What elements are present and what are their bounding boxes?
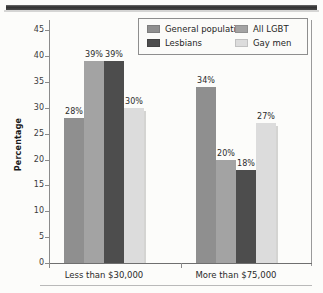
bar: [216, 160, 236, 263]
top-divider-shadow: [4, 10, 319, 12]
legend-swatch-icon: [147, 25, 160, 33]
y-tick-label-10: 10: [14, 207, 44, 215]
legend-label: Lesbians: [165, 38, 202, 49]
bar-shadow: [144, 111, 146, 263]
bar-value-label: 34%: [192, 76, 220, 85]
y-tick-label-30: 30: [14, 104, 44, 112]
y-tick-label-0: 0: [14, 259, 44, 267]
chart-legend[interactable]: General populationAll LGBTLesbiansGay me…: [138, 18, 308, 55]
x-tick-0: [49, 263, 50, 268]
y-tick-label-text: 15: [18, 181, 44, 189]
legend-swatch-icon: [235, 39, 248, 47]
y-tick-label-20: 20: [14, 156, 44, 164]
plot-area: 28%39%39%30%34%20%18%27%: [50, 20, 312, 263]
bar-value-label: 27%: [252, 112, 280, 121]
x-tick-1: [181, 263, 182, 268]
y-tick-label-40: 40: [14, 52, 44, 60]
bar: [256, 123, 276, 263]
bar-value-label: 20%: [212, 149, 240, 158]
legend-label: All LGBT: [253, 24, 289, 35]
y-tick-label-35: 35: [14, 78, 44, 86]
page-bottom-rule: [40, 285, 312, 286]
legend-swatch-icon: [147, 39, 160, 47]
y-tick-label-5: 5: [14, 233, 44, 241]
x-axis-label-0: Less than $30,000: [44, 270, 164, 280]
y-tick-label-45: 45: [14, 26, 44, 34]
y-tick-label-25: 25: [14, 130, 44, 138]
y-tick-label-text: 40: [18, 52, 44, 60]
bar: [64, 118, 84, 263]
bar: [196, 87, 216, 263]
bar: [104, 61, 124, 263]
bar: [236, 170, 256, 263]
bar: [124, 108, 144, 263]
y-tick-label-text: 5: [18, 233, 44, 241]
y-tick-label-text: 0: [18, 259, 44, 267]
bar-shadow: [276, 126, 278, 263]
y-tick-label-text: 20: [18, 156, 44, 164]
bar-value-label: 30%: [120, 97, 148, 106]
y-tick-label-text: 25: [18, 130, 44, 138]
y-tick-label-15: 15: [14, 181, 44, 189]
y-tick-label-text: 45: [18, 26, 44, 34]
y-axis-title: Percentage: [14, 110, 23, 180]
legend-label: Gay men: [253, 38, 291, 49]
bar: [84, 61, 104, 263]
legend-swatch-icon: [235, 25, 248, 33]
y-tick-label-text: 35: [18, 78, 44, 86]
y-tick-label-text: 30: [18, 104, 44, 112]
bar-value-label: 39%: [100, 50, 128, 59]
y-tick-label-text: 10: [18, 207, 44, 215]
chart-page: Percentage 051015202530354045 28%39%39%3…: [0, 0, 323, 293]
x-axis-label-1: More than $75,000: [176, 270, 296, 280]
